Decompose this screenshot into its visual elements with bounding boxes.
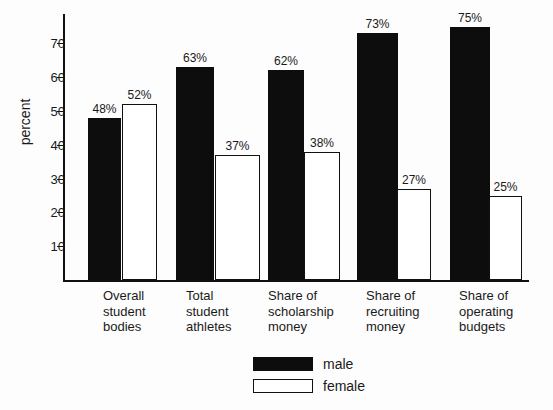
bar-female	[397, 189, 431, 280]
y-axis-tick-label-wrap: 20	[0, 206, 65, 219]
y-axis-tick-label: 70	[39, 37, 65, 50]
legend-label: male	[323, 357, 353, 371]
y-axis-tick-label: 30	[39, 173, 65, 186]
bar-female	[122, 104, 157, 280]
y-axis-title: percent	[18, 77, 32, 167]
bar-value-label: 38%	[298, 137, 346, 149]
bar-value-label: 25%	[483, 181, 528, 193]
bar-female	[304, 152, 340, 280]
bar-value-label: 52%	[116, 89, 163, 101]
bar-male	[450, 27, 490, 281]
legend-item-female: female	[253, 379, 413, 394]
x-axis-line	[63, 280, 529, 282]
bar-value-label: 37%	[209, 140, 266, 152]
y-axis-tick-label: 50	[39, 105, 65, 118]
y-axis-tick-label: 40	[39, 139, 65, 152]
bar-female	[489, 196, 522, 281]
bar-value-label: 73%	[351, 18, 404, 30]
y-axis-tick-label: 20	[39, 206, 65, 219]
bar-value-label: 62%	[262, 55, 310, 67]
y-axis-tick-label-wrap: 40	[0, 139, 65, 152]
y-axis-tick-label: 60	[39, 71, 65, 84]
bar-male	[88, 118, 121, 280]
legend-swatch-female	[253, 379, 313, 393]
bar-value-label: 75%	[444, 12, 496, 24]
legend-item-male: male	[253, 357, 413, 372]
legend-swatch-male	[253, 357, 313, 371]
y-axis-tick-label-wrap: 70	[0, 37, 65, 50]
x-axis-category-label: Share of operating budgets	[459, 288, 513, 335]
y-axis-tick-label: 10	[39, 240, 65, 253]
bar-value-label: 27%	[391, 174, 437, 186]
y-axis-tick-label-wrap: 50	[0, 105, 65, 118]
x-axis-category-label: Overall student bodies	[103, 288, 146, 335]
bar-male	[176, 67, 214, 280]
x-axis-category-label: Share of scholarship money	[268, 288, 334, 335]
y-axis-tick-label-wrap: 60	[0, 71, 65, 84]
bar-female	[215, 155, 260, 280]
bar-chart: percent 10203040506070 48%52%63%37%62%38…	[0, 0, 553, 410]
legend-label: female	[323, 379, 365, 393]
y-axis-tick-label-wrap: 10	[0, 240, 65, 253]
bar-value-label: 48%	[82, 103, 127, 115]
x-axis-category-label: Total student athletes	[186, 288, 232, 335]
y-axis-tick-label-wrap: 30	[0, 173, 65, 186]
bar-male	[268, 70, 304, 280]
bar-value-label: 63%	[170, 52, 220, 64]
bar-male	[357, 33, 398, 280]
x-axis-category-label: Share of recruiting money	[366, 288, 419, 335]
